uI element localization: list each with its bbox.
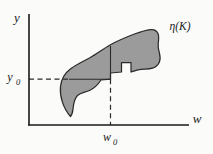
x-axis-label: w	[193, 111, 202, 126]
figure-container: y w y 0 w 0 η(K)	[0, 0, 213, 154]
y-axis-label: y	[12, 10, 20, 25]
y0-tick-subscript: 0	[16, 77, 21, 87]
eta-k-region-group	[60, 30, 160, 117]
w0-tick-label: w 0	[103, 130, 118, 147]
y0-tick-label: y 0	[6, 70, 21, 87]
y0-tick-base: y	[6, 70, 13, 84]
eta-k-region-label: η(K)	[169, 20, 190, 33]
w0-tick-subscript: 0	[113, 137, 118, 147]
math-figure-svg: y w y 0 w 0 η(K)	[0, 0, 213, 154]
w0-tick-base: w	[103, 130, 111, 144]
